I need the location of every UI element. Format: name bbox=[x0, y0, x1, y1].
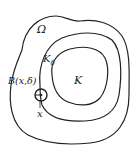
point-x bbox=[40, 94, 43, 97]
k-delta-label: Kδ bbox=[42, 53, 55, 67]
x-label: x bbox=[37, 108, 43, 119]
k-delta-sub: δ bbox=[50, 59, 54, 67]
nested-sets-diagram: Ω Kδ K B(x,δ) x bbox=[0, 0, 137, 148]
ball-label: B(x,δ) bbox=[7, 75, 37, 86]
omega-label: Ω bbox=[36, 23, 46, 36]
k-label: K bbox=[73, 74, 83, 87]
